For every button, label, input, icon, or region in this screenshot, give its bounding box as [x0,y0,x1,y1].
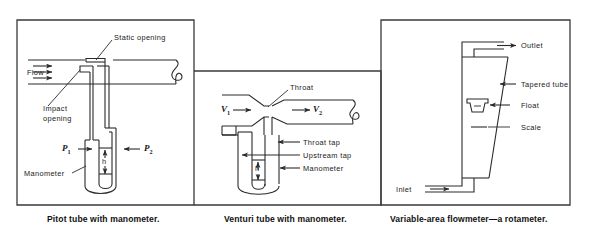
flow-measurement-figure: Static opening Flow Impact opening Manom… [0,0,592,233]
rotameter-tapered-tube [462,57,508,178]
label-static-opening: Static opening [114,33,166,42]
label-pitot-manometer: Manometer [24,169,65,178]
caption-rotameter: Variable-area flowmeter—a rotameter. [390,214,547,224]
label-throat-tap: Throat tap [303,138,340,147]
caption-pitot: Pitot tube with manometer. [47,214,159,224]
label-venturi-manometer: Manometer [303,164,344,173]
label-venturi-h: h [255,164,259,173]
label-outlet: Outlet [521,41,543,50]
label-p2: P2 [144,143,153,155]
panel-frame-venturi [194,71,381,205]
label-scale: Scale [521,123,541,132]
label-v2-subscript: 2 [319,109,322,116]
label-p1-subscript: 1 [68,148,71,155]
pitot-tube-body [80,59,109,141]
rotameter-inlet-pipe [425,178,474,192]
label-v1: V1 [221,104,230,116]
label-v1-subscript: 1 [227,109,230,116]
rotameter-pointer-arrows [488,84,516,127]
label-tapered-tube: Tapered tube [521,80,568,89]
label-p1: P1 [62,143,71,155]
venturi-leader-lines [268,90,288,107]
label-throat: Throat [290,83,313,92]
label-impact-opening-line1: Impact [43,104,67,114]
diagram-artwork [0,0,592,233]
label-flow: Flow [27,68,44,77]
label-v2: V2 [313,104,322,116]
label-pitot-h: h [102,157,106,166]
label-inlet: Inlet [396,185,412,194]
rotameter-outlet-pipe [462,42,504,57]
venturi-taps-and-manometer [222,117,279,194]
label-impact-opening-line2: opening [43,114,72,124]
caption-venturi: Venturi tube with manometer. [224,214,347,224]
label-p2-subscript: 2 [150,148,153,155]
label-float: Float [521,101,539,110]
rotameter-float [467,99,488,112]
label-upstream-tap: Upstream tap [303,151,352,160]
